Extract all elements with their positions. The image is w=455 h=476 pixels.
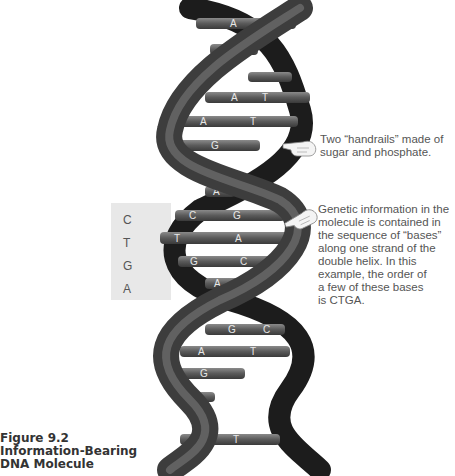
handrails-annotation: Two “handrails” made of sugar and phosph… [320,133,455,159]
svg-text:G: G [200,368,208,379]
genetic-info-annotation: Genetic information in the molecule is c… [318,203,455,307]
annotation-line: is CTGA. [318,294,455,307]
annotation-line: sugar and phosphate. [320,146,455,159]
svg-text:A: A [235,233,242,244]
svg-text:A: A [200,116,207,127]
annotation-line: Genetic information in the [318,203,455,216]
svg-text:T: T [250,116,256,127]
annotation-line: along one strand of the [318,242,455,255]
svg-text:G: G [228,324,236,335]
svg-text:G: G [190,256,198,267]
dna-figure: C T G A AG [0,0,455,476]
svg-text:G: G [211,140,219,151]
annotation-line: Two “handrails” made of [320,133,455,146]
svg-text:T: T [262,92,268,103]
annotation-line: the sequence of “bases” [318,229,455,242]
svg-text:C: C [263,324,270,335]
annotation-line: double helix. In this [318,255,455,268]
annotation-line: a few of these bases [318,281,455,294]
svg-text:T: T [174,233,180,244]
svg-text:T: T [233,434,239,445]
svg-text:A: A [230,18,237,29]
figure-title-line: DNA Molecule [0,458,137,471]
svg-text:A: A [231,92,238,103]
svg-text:C: C [240,256,247,267]
annotation-line: example, the order of [318,268,455,281]
svg-text:G: G [233,210,241,221]
svg-text:C: C [189,210,196,221]
annotation-line: molecule is contained in [318,216,455,229]
figure-caption: Figure 9.2 Information-Bearing DNA Molec… [0,432,137,471]
svg-text:A: A [198,346,205,357]
svg-text:T: T [250,346,256,357]
